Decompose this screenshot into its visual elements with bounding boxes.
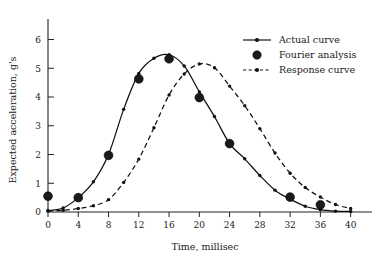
data-point-small — [213, 66, 216, 69]
data-point-small — [167, 93, 170, 96]
data-point-small — [319, 195, 322, 198]
data-point-small — [334, 209, 337, 212]
data-point-small — [107, 198, 110, 201]
data-point-small — [122, 108, 125, 111]
y-tick-label: 2 — [35, 150, 41, 160]
data-point-fourier — [225, 139, 234, 148]
data-point-small — [198, 62, 201, 65]
x-axis-title: Time, millisec — [171, 241, 238, 252]
data-point-fourier — [316, 200, 325, 209]
legend-label: Actual curve — [278, 34, 340, 45]
data-point-small — [334, 203, 337, 206]
x-tick-label: 16 — [163, 220, 175, 230]
data-point-small — [304, 186, 307, 189]
data-point-small — [77, 207, 80, 210]
x-tick-label: 0 — [45, 220, 51, 230]
x-tick-label: 36 — [315, 220, 327, 230]
data-point-small — [152, 56, 155, 59]
data-point-small — [304, 205, 307, 208]
legend-circle-icon — [253, 51, 261, 59]
data-point-fourier — [286, 193, 295, 202]
data-point-small — [137, 157, 140, 160]
x-tick-label: 28 — [254, 220, 266, 230]
data-point-small — [243, 104, 246, 107]
data-point-small — [213, 115, 216, 118]
legend-dot-icon — [255, 38, 259, 42]
y-tick-label: 3 — [35, 121, 41, 131]
data-point-small — [152, 126, 155, 129]
data-point-fourier — [195, 93, 204, 102]
data-point-small — [228, 84, 231, 87]
x-tick-label: 24 — [224, 220, 236, 230]
data-point-fourier — [44, 192, 53, 201]
y-tick-label: 1 — [35, 179, 41, 189]
x-tick-label: 4 — [75, 220, 81, 230]
chart-plot-area: 04812162024283236400123456Time, millisec… — [0, 0, 387, 261]
x-tick-label: 32 — [284, 220, 295, 230]
data-point-small — [92, 180, 95, 183]
y-axis-title: Expected acceleration, g's — [7, 56, 18, 183]
data-point-small — [182, 72, 185, 75]
x-tick-label: 12 — [133, 220, 144, 230]
y-tick-label: 4 — [35, 92, 41, 102]
data-point-fourier — [104, 151, 113, 160]
data-point-small — [288, 171, 291, 174]
data-point-small — [258, 127, 261, 130]
chart-figure: 04812162024283236400123456Time, millisec… — [0, 0, 387, 261]
data-point-small — [243, 157, 246, 160]
y-tick-label: 6 — [35, 35, 41, 45]
data-point-fourier — [134, 74, 143, 83]
x-tick-label: 20 — [194, 220, 206, 230]
x-tick-label: 40 — [345, 220, 357, 230]
data-point-small — [273, 188, 276, 191]
data-point-fourier — [74, 193, 83, 202]
data-point-small — [61, 209, 64, 212]
y-tick-label: 0 — [35, 207, 41, 217]
x-tick-label: 8 — [106, 220, 112, 230]
data-point-small — [273, 151, 276, 154]
data-point-small — [122, 181, 125, 184]
legend-dot-icon — [255, 68, 259, 72]
data-point-fourier — [165, 54, 174, 63]
data-point-small — [182, 64, 185, 67]
data-point-small — [46, 209, 49, 212]
data-point-small — [349, 207, 352, 210]
legend-label: Response curve — [279, 64, 355, 75]
data-point-small — [258, 174, 261, 177]
y-tick-label: 5 — [35, 64, 41, 74]
legend-label: Fourier analysis — [279, 49, 356, 60]
data-point-small — [92, 204, 95, 207]
